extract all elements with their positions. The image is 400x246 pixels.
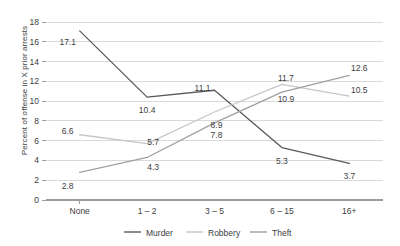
y-tick-label: 18 bbox=[30, 17, 40, 27]
legend-label-robbery[interactable]: Robbery bbox=[208, 228, 241, 238]
x-category-label: None bbox=[70, 206, 91, 216]
y-tick-label: 2 bbox=[34, 175, 39, 185]
gridlines bbox=[46, 22, 383, 180]
x-category-label: 3 – 5 bbox=[205, 206, 224, 216]
point-label: 5.3 bbox=[276, 156, 288, 166]
series-line-murder bbox=[80, 31, 350, 164]
y-axis-ticks: 024681012141618 bbox=[30, 17, 46, 205]
y-tick-label: 8 bbox=[34, 116, 39, 126]
y-tick-label: 12 bbox=[30, 76, 40, 86]
point-label: 4.3 bbox=[147, 162, 159, 172]
line-chart: Percent of offense in X prior arrests 02… bbox=[0, 0, 400, 246]
y-tick-label: 14 bbox=[30, 57, 40, 67]
x-category-label: 1 – 2 bbox=[138, 206, 157, 216]
y-tick-label: 16 bbox=[30, 37, 40, 47]
data-point-labels: 17.110.411.15.33.76.65.78.911.710.52.84.… bbox=[59, 37, 367, 191]
point-label: 8.9 bbox=[211, 120, 223, 130]
point-label: 11.1 bbox=[195, 83, 211, 93]
chart-canvas: 024681012141618 None1 – 23 – 56 – 1516+ … bbox=[0, 0, 400, 246]
point-label: 7.8 bbox=[211, 130, 223, 140]
legend: MurderRobberyTheft bbox=[124, 228, 292, 238]
point-label: 10.9 bbox=[278, 94, 295, 104]
point-label: 5.7 bbox=[147, 137, 159, 147]
y-tick-label: 4 bbox=[34, 155, 39, 165]
legend-label-murder[interactable]: Murder bbox=[146, 228, 173, 238]
point-label: 17.1 bbox=[59, 37, 76, 47]
y-tick-label: 0 bbox=[34, 195, 39, 205]
point-label: 2.8 bbox=[62, 181, 74, 191]
point-label: 6.6 bbox=[62, 126, 74, 136]
legend-label-theft[interactable]: Theft bbox=[272, 228, 292, 238]
y-tick-label: 10 bbox=[30, 96, 40, 106]
point-label: 12.6 bbox=[351, 63, 368, 73]
point-label: 10.5 bbox=[351, 85, 368, 95]
x-category-label: 6 – 15 bbox=[270, 206, 294, 216]
x-axis: None1 – 23 – 56 – 1516+ bbox=[46, 200, 383, 216]
x-category-label: 16+ bbox=[342, 206, 356, 216]
point-label: 10.4 bbox=[139, 105, 156, 115]
point-label: 3.7 bbox=[343, 171, 355, 181]
point-label: 11.7 bbox=[278, 73, 294, 83]
y-tick-label: 6 bbox=[34, 136, 39, 146]
